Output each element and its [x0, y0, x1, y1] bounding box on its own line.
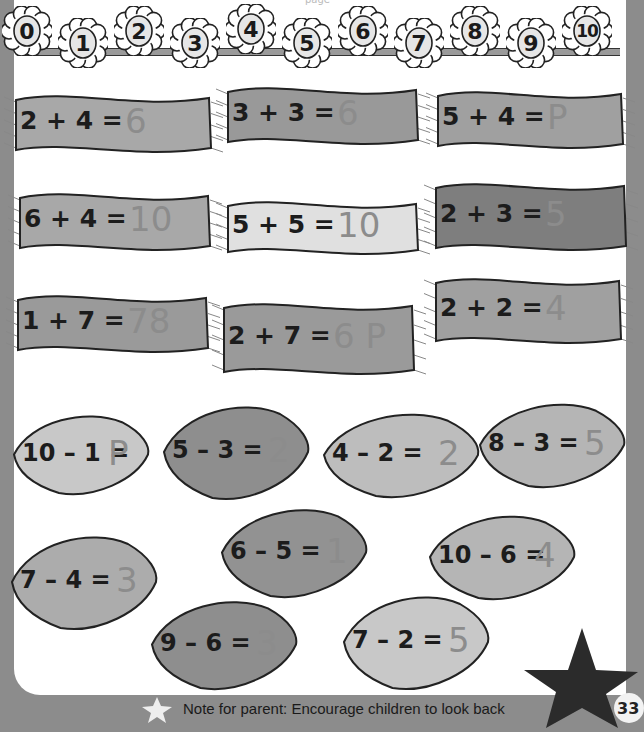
- addition-equation: 2 + 7 =: [228, 321, 331, 350]
- addition-equation: 3 + 3 =: [232, 98, 335, 127]
- addition-equation: 5 + 5 =: [232, 210, 335, 239]
- number-flower-6: 6: [338, 6, 388, 56]
- subtraction-leaf: 7 – 4 = 3: [8, 532, 158, 632]
- handwritten-answer: 10: [337, 205, 380, 245]
- subtraction-leaf: 9 – 6 = 3: [148, 597, 298, 692]
- handwritten-answer: P: [547, 97, 568, 137]
- handwritten-answer: 3: [256, 623, 278, 663]
- addition-equation: 1 + 7 =: [22, 306, 125, 335]
- addition-equation: 2 + 2 =: [440, 293, 543, 322]
- subtraction-equation: 9 – 6 =: [160, 629, 251, 657]
- handwritten-answer: 78: [127, 301, 170, 341]
- flower-number: 5: [282, 18, 332, 68]
- addition-equation: 5 + 4 =: [442, 102, 545, 131]
- number-flower-2: 2: [114, 6, 164, 56]
- flower-number: 3: [170, 18, 220, 68]
- handwritten-answer: 10: [129, 199, 172, 239]
- subtraction-leaf: 10 – 1 = P: [10, 412, 150, 497]
- addition-banner: 3 + 3 = 6: [222, 84, 422, 146]
- number-flower-5: 5: [282, 18, 332, 68]
- addition-banner: 5 + 5 = 10: [222, 198, 422, 256]
- addition-banner: 5 + 4 = P: [432, 88, 627, 150]
- addition-equation: 2 + 4 =: [20, 106, 123, 135]
- flower-number: 6: [338, 6, 388, 56]
- addition-banner: 2 + 7 = 6 P: [218, 300, 418, 376]
- handwritten-answer: 6: [337, 93, 359, 133]
- handwritten-answer: 6 P: [333, 316, 386, 356]
- flower-number: 7: [394, 18, 444, 68]
- subtraction-equation: 6 – 5 =: [230, 537, 321, 565]
- subtraction-equation: 7 – 4 =: [20, 566, 111, 594]
- handwritten-answer: 4: [534, 535, 556, 575]
- page-number: 33: [614, 693, 644, 723]
- flower-number: 1: [58, 18, 108, 68]
- handwritten-answer: 3: [116, 560, 138, 600]
- handwritten-answer: 4: [545, 288, 567, 328]
- addition-banner: 2 + 3 = 5: [430, 180, 630, 252]
- subtraction-equation: 4 – 2 =: [332, 439, 423, 467]
- subtraction-leaf: 6 – 5 = 1: [218, 505, 368, 600]
- flower-number: 4: [226, 4, 276, 54]
- subtraction-leaf: 5 – 3 = 2: [160, 402, 310, 502]
- number-flower-1: 1: [58, 18, 108, 68]
- flower-number: 2: [114, 6, 164, 56]
- handwritten-answer: 5: [448, 620, 470, 660]
- subtraction-leaf: 4 – 2 = 2: [320, 410, 480, 500]
- subtraction-equation: 8 – 3 =: [488, 429, 579, 457]
- flower-number: 8: [450, 6, 500, 56]
- flower-number: 0: [2, 6, 52, 56]
- addition-banner: 1 + 7 = 78: [12, 292, 212, 354]
- subtraction-equation: 7 – 2 =: [352, 626, 443, 654]
- subtraction-equation: 10 – 6 =: [438, 541, 545, 569]
- number-flower-8: 8: [450, 6, 500, 56]
- number-flower-10: 10: [562, 6, 612, 56]
- star-icon: [140, 697, 174, 727]
- addition-banner: 2 + 2 = 4: [430, 275, 625, 345]
- flower-number: 9: [506, 18, 556, 68]
- addition-equation: 2 + 3 =: [440, 199, 543, 228]
- number-flower-4: 4: [226, 4, 276, 54]
- subtraction-leaf: 10 – 6 = 4: [426, 512, 576, 602]
- handwritten-answer: 5: [545, 194, 567, 234]
- flower-number: 10: [562, 6, 612, 56]
- handwritten-answer: 5: [584, 423, 606, 463]
- handwritten-answer: 2: [438, 433, 460, 473]
- addition-banner: 6 + 4 = 10: [14, 190, 214, 252]
- handwritten-answer: 1: [326, 531, 348, 571]
- handwritten-answer: 2: [268, 430, 290, 470]
- handwritten-answer: P: [108, 433, 129, 473]
- number-flower-0: 0: [2, 6, 52, 56]
- subtraction-leaf: 7 – 2 = 5: [340, 592, 490, 692]
- addition-banner: 2 + 4 = 6: [10, 92, 215, 154]
- number-flower-3: 3: [170, 18, 220, 68]
- subtraction-leaf: 8 – 3 = 5: [476, 400, 626, 490]
- number-line: 012345678910: [0, 0, 640, 80]
- addition-equation: 6 + 4 =: [24, 204, 127, 233]
- subtraction-equation: 5 – 3 =: [172, 436, 263, 464]
- number-flower-9: 9: [506, 18, 556, 68]
- parent-note: Note for parent: Encourage children to l…: [183, 700, 505, 717]
- number-flower-7: 7: [394, 18, 444, 68]
- handwritten-answer: 6: [125, 101, 147, 141]
